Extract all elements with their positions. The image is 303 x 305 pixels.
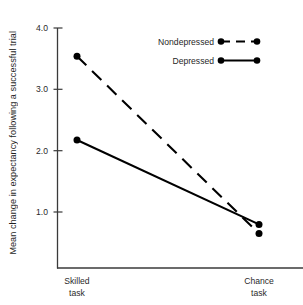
y-tick-label-4: 4.0 (22, 23, 48, 33)
data-point-depressed-chance (256, 221, 263, 228)
data-point-depressed-skilled (74, 137, 81, 144)
x-tick-label-skilled: Skilled task (37, 276, 117, 299)
series-depressed-line (77, 140, 259, 224)
x-tick-label-chance-line1: Chance (219, 276, 299, 288)
legend-label-depressed: Depressed (94, 56, 214, 66)
legend-swatch-nondepressed (218, 38, 261, 45)
y-tick-label-2: 2.0 (22, 146, 48, 156)
legend-swatch-depressed (218, 57, 261, 64)
y-tick-label-3: 3.0 (22, 84, 48, 94)
series-depressed (74, 137, 263, 228)
y-tick-label-1: 1.0 (22, 207, 48, 217)
legend-label-nondepressed: Nondepressed (94, 37, 214, 47)
series-nondepressed (74, 53, 263, 237)
data-point-nondepressed-skilled (74, 53, 81, 60)
series-nondepressed-line (77, 56, 259, 233)
x-tick-label-chance: Chance task (219, 276, 299, 299)
x-tick-label-skilled-line1: Skilled (37, 276, 117, 288)
x-tick-label-chance-line2: task (219, 288, 299, 300)
chart-figure: Mean change in expectancy following a su… (0, 0, 303, 305)
data-point-nondepressed-chance (256, 230, 263, 237)
x-tick-label-skilled-line2: task (37, 288, 117, 300)
